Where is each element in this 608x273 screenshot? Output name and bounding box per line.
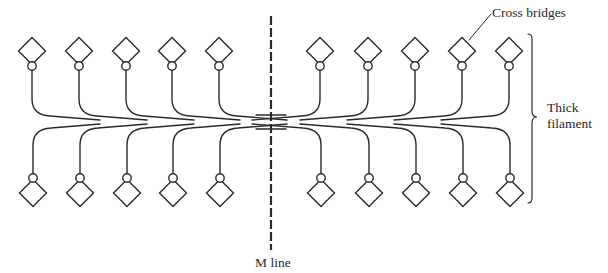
cross-bridge-top-right-2-diamond-icon [355,38,382,65]
cross-bridge-bottom-right-2-circle-icon [365,174,373,182]
cross-bridge-top-left-5-circle-icon [215,62,223,70]
filament-tail-lower-right-3 [347,124,416,174]
cross-bridge-bottom-left-5-circle-icon [216,174,224,182]
filament-tail-upper-right-3 [347,70,415,120]
thick-filament-label: Thick filament [547,100,592,132]
cross-bridge-bottom-left-1-circle-icon [29,174,37,182]
cross-bridge-top-left-3-circle-icon [122,62,130,70]
cross-bridge-bottom-right-5-circle-icon [506,174,514,182]
m-line-label: M line [255,255,291,271]
cross-bridge-top-left-3-diamond-icon [113,38,140,65]
cross-bridge-bottom-left-4-circle-icon [169,174,177,182]
filament-tail-upper-left-1 [32,70,100,120]
cross-bridge-bottom-left-2-circle-icon [76,174,84,182]
cross-bridge-top-right-5-diamond-icon [496,38,523,65]
filament-tail-lower-left-3 [127,124,194,174]
thick-filament-brace-icon [528,34,537,203]
thick-filament-diagram [0,0,608,273]
filament-tail-upper-right-2 [300,70,368,120]
filament-tail-upper-right-1 [252,70,320,120]
cross-bridge-top-left-4-circle-icon [168,62,176,70]
filament-tail-upper-left-2 [79,70,147,120]
cross-bridge-top-left-2-circle-icon [75,62,83,70]
cross-bridge-bottom-left-2-diamond-icon [67,180,94,207]
cross-bridge-bottom-left-1-diamond-icon [20,180,47,207]
filament-tail-upper-left-4 [172,70,240,120]
thick-filament-label-line2: filament [547,116,592,132]
cross-bridge-bottom-right-3-circle-icon [412,174,420,182]
filament-tail-lower-right-5 [441,124,510,174]
cross-bridge-top-right-5-circle-icon [505,62,513,70]
filament-tail-lower-right-4 [394,124,463,174]
cross-bridge-top-left-1-circle-icon [28,62,36,70]
filament-tail-lower-right-2 [300,124,369,174]
filament-tail-upper-right-5 [441,70,509,120]
cross-bridge-bottom-left-3-circle-icon [123,174,131,182]
cross-bridge-top-right-4-circle-icon [458,62,466,70]
filament-tail-lower-left-5 [220,124,287,174]
cross-bridge-top-right-1-diamond-icon [307,38,334,65]
cross-bridge-bottom-right-1-circle-icon [317,174,325,182]
cross-bridge-bottom-left-4-diamond-icon [160,180,187,207]
cross-bridge-bottom-right-4-diamond-icon [450,180,477,207]
cross-bridge-top-right-3-circle-icon [411,62,419,70]
filament-tail-upper-left-3 [126,70,194,120]
filament-tail-lower-left-2 [80,124,147,174]
filament-tail-lower-left-4 [173,124,240,174]
cross-bridge-top-right-1-circle-icon [316,62,324,70]
cross-bridge-bottom-right-3-diamond-icon [403,180,430,207]
filament-tail-lower-right-1 [252,124,321,174]
cross-bridge-bottom-right-4-circle-icon [459,174,467,182]
cross-bridge-bottom-right-2-diamond-icon [356,180,383,207]
cross-bridge-bottom-left-3-diamond-icon [114,180,141,207]
thick-filament-label-line1: Thick [547,100,592,116]
cross-bridge-bottom-right-1-diamond-icon [308,180,335,207]
cross-bridge-bottom-right-5-diamond-icon [497,180,524,207]
filament-tail-upper-left-5 [219,70,287,120]
cross-bridge-top-right-3-diamond-icon [402,38,429,65]
filament-tail-lower-left-1 [33,124,100,174]
cross-bridge-top-right-4-diamond-icon [449,38,476,65]
filament-tail-upper-right-4 [394,70,462,120]
cross-bridges-pointer-line [469,14,491,40]
cross-bridge-top-right-2-circle-icon [364,62,372,70]
cross-bridge-top-left-4-diamond-icon [159,38,186,65]
cross-bridge-bottom-left-5-diamond-icon [207,180,234,207]
cross-bridge-top-left-1-diamond-icon [19,38,46,65]
cross-bridge-top-left-2-diamond-icon [66,38,93,65]
cross-bridges-label: Cross bridges [492,5,566,21]
cross-bridge-top-left-5-diamond-icon [206,38,233,65]
